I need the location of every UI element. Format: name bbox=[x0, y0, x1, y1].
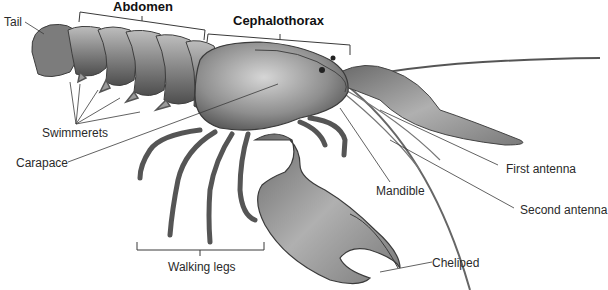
label-tail: Tail bbox=[4, 15, 22, 29]
cheliped-shape bbox=[255, 134, 400, 284]
label-cephalothorax: Cephalothorax bbox=[233, 14, 324, 28]
label-swimmerets: Swimmerets bbox=[42, 126, 108, 140]
label-cheliped: Cheliped bbox=[432, 256, 479, 270]
swimmerets-leader-2 bbox=[76, 84, 80, 124]
abdomen-shape bbox=[32, 24, 219, 109]
label-second-antenna: Second antenna bbox=[520, 203, 607, 217]
crayfish-illustration bbox=[0, 0, 608, 290]
label-walking-legs: Walking legs bbox=[168, 260, 236, 274]
label-first-antenna: First antenna bbox=[506, 162, 576, 176]
crayfish-anatomy-diagram: Abdomen Cephalothorax Tail Swimmerets Ca… bbox=[0, 0, 608, 290]
label-carapace: Carapace bbox=[16, 156, 68, 170]
tail-leader bbox=[25, 22, 44, 34]
label-abdomen: Abdomen bbox=[113, 0, 173, 14]
cheliped-leader bbox=[380, 262, 432, 272]
walking-legs-bracket bbox=[137, 242, 264, 256]
swimmerets-leader-1 bbox=[70, 82, 76, 124]
label-mandible: Mandible bbox=[376, 184, 425, 198]
swimmerets-leader-3 bbox=[76, 90, 98, 124]
